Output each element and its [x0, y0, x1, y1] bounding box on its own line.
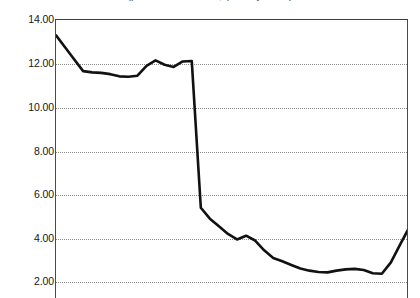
plot-area [55, 19, 408, 298]
y-tick-label-10: 10.00 [0, 102, 54, 113]
data-series-line [56, 20, 408, 298]
y-tick-label-14: 14.00 [0, 14, 54, 25]
chart-title-text: (percent of total loans, quarterly serie… [0, 0, 420, 1]
series-path-0 [56, 35, 408, 273]
y-tick-label-6: 6.00 [0, 189, 54, 200]
y-tick-label-12: 12.00 [0, 58, 54, 69]
chart-figure: (percent of total loans, quarterly serie… [0, 0, 420, 298]
y-tick-label-4: 4.00 [0, 233, 54, 244]
y-tick-label-2: 2.00 [0, 276, 54, 287]
y-tick-label-8: 8.00 [0, 146, 54, 157]
chart-title-cropped: (percent of total loans, quarterly serie… [0, 0, 420, 9]
